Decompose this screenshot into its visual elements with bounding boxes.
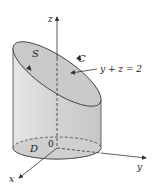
region-label: D [29, 143, 38, 154]
origin-label: 0 [48, 139, 54, 149]
curve-label: C [78, 53, 86, 64]
surface-label: S [32, 48, 39, 59]
x-axis-label: x [9, 174, 14, 184]
y-axis [101, 153, 146, 158]
y-axis-label: y [136, 162, 143, 172]
cylinder-diagram: z x y S C y + z = 2 D 0 [0, 0, 156, 193]
z-axis-label: z [47, 14, 53, 24]
plane-equation-label: y + z = 2 [99, 64, 142, 74]
